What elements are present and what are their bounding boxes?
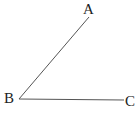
angle-diagram: A B C [0,0,138,125]
ray-bc [19,99,124,100]
point-label-b: B [4,90,14,106]
point-label-c: C [125,93,135,109]
point-label-a: A [83,1,94,17]
diagram-canvas: A B C [0,0,138,125]
ray-ba [19,17,89,99]
